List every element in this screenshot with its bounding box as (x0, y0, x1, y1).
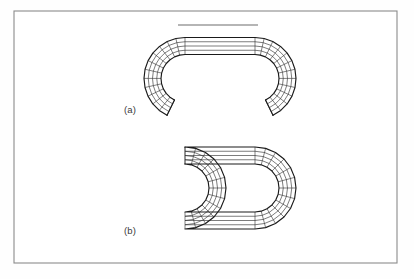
panel-label-b: (b) (124, 225, 136, 236)
figure-root: (a) (b) (0, 0, 414, 279)
panel-label-a: (a) (124, 104, 136, 115)
technical-figure: (a) (b) (0, 0, 414, 279)
